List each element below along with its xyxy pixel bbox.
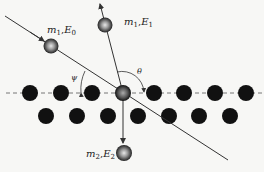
atom	[22, 85, 38, 101]
incident-label: m1,E0	[47, 24, 76, 37]
lattice-bottom-row	[38, 108, 238, 124]
atom	[207, 85, 223, 101]
recoil-particle	[116, 145, 132, 161]
theta-label: θ	[137, 67, 142, 76]
atom	[84, 85, 100, 101]
incident-particle	[44, 39, 59, 54]
lattice-top-row	[22, 85, 254, 101]
scattering-diagram: m1,E0 m1,E1 m2,E2 ψ θ	[0, 0, 264, 172]
atom	[38, 108, 54, 124]
atom	[69, 108, 85, 124]
incident-arrow	[30, 32, 44, 41]
scattered-label: m1,E1	[124, 16, 153, 29]
recoil-label: m2,E2	[86, 148, 115, 161]
target-atom	[115, 85, 131, 101]
atom	[238, 85, 254, 101]
scattered-particle	[98, 18, 113, 33]
atom	[222, 108, 238, 124]
atom	[146, 85, 162, 101]
psi-label: ψ	[71, 73, 78, 82]
psi-angle-arc	[81, 71, 85, 93]
atom	[191, 108, 207, 124]
atom	[100, 108, 116, 124]
atom	[176, 85, 192, 101]
atom	[53, 85, 69, 101]
atom	[130, 108, 146, 124]
